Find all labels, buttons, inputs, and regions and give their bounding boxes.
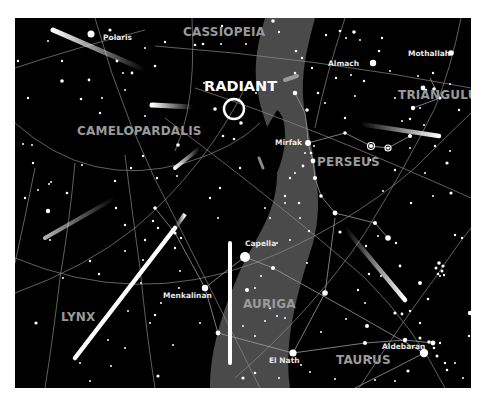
star-almach bbox=[370, 60, 376, 66]
star-label-almach: Almach bbox=[328, 59, 359, 68]
constellation-label-taurus: TAURUS bbox=[336, 353, 391, 367]
star-polaris bbox=[88, 31, 95, 38]
star-label-aldebaran: Aldebaran bbox=[382, 342, 425, 351]
star-label-el-nath: El Nath bbox=[269, 356, 300, 365]
star-label-mothallah: Mothallah bbox=[408, 49, 450, 58]
constellation-label-cassiopeia: CASSIOPEIA bbox=[183, 25, 266, 39]
constellation-label-camelopardalis: CAMELOPARDALIS bbox=[77, 124, 202, 138]
star-capella bbox=[240, 252, 250, 262]
constellation-label-perseus: PERSEUS bbox=[317, 155, 380, 169]
star-label-polaris: Polaris bbox=[103, 33, 133, 42]
star-label-capella: Capella bbox=[245, 239, 276, 248]
constellation-label-auriga: AURIGA bbox=[243, 297, 296, 311]
star-label-mirfak: Mirfak bbox=[275, 138, 303, 147]
star-map: RADIANT PolarisAlmachMothallahMirfakCape… bbox=[15, 18, 471, 388]
radiant-label: RADIANT bbox=[204, 78, 277, 94]
star-label-menkalinan: Menkalinan bbox=[163, 291, 212, 300]
constellation-label-lynx: LYNX bbox=[61, 310, 96, 324]
star-mirfak bbox=[305, 140, 311, 146]
meteor-trail bbox=[152, 105, 193, 107]
constellation-label-triangulum: TRIANGULUM bbox=[398, 88, 471, 102]
